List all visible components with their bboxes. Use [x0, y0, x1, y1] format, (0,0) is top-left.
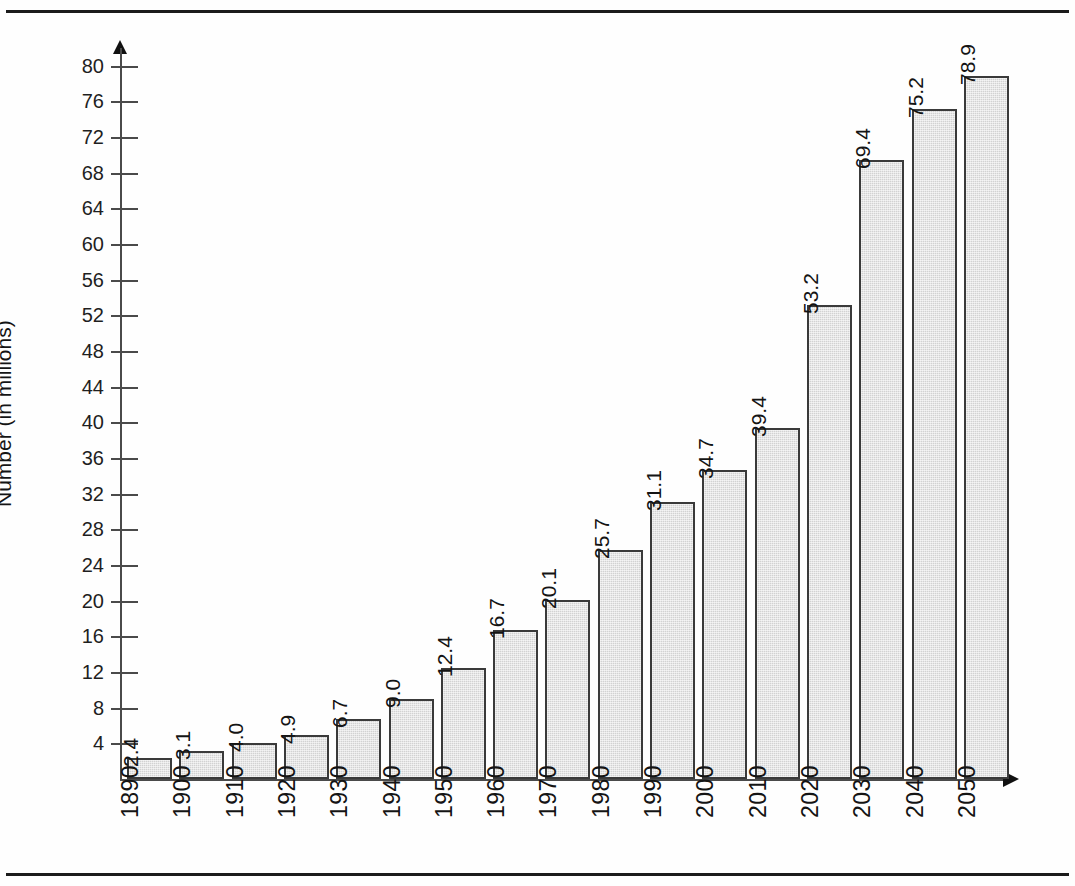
y-axis-tick: [111, 351, 138, 353]
y-axis-tick: [111, 636, 138, 638]
bar-value-label: 69.4: [852, 128, 873, 169]
y-axis-tick-label: 40: [50, 412, 104, 432]
bar: [493, 630, 538, 779]
bar: [545, 600, 590, 779]
y-axis-tick-label: 64: [50, 198, 104, 218]
bar: [912, 109, 957, 779]
bar-value-label: 4.9: [277, 715, 298, 744]
y-axis-tick-label: 24: [50, 555, 104, 575]
bar-value-label: 34.7: [695, 438, 716, 479]
bottom-rule: [6, 873, 1069, 876]
y-axis-tick: [111, 494, 138, 496]
x-axis-tick-label: 1970: [537, 765, 560, 818]
y-axis-tick: [111, 672, 138, 674]
x-axis-tick-label: 1920: [276, 765, 299, 818]
bar-value-label: 78.9: [957, 44, 978, 85]
x-axis-tick-label: 2010: [747, 765, 770, 818]
bar: [859, 160, 904, 779]
y-axis-tick-label: 60: [50, 234, 104, 254]
bar: [441, 668, 486, 779]
bar: [702, 470, 747, 779]
x-axis-tick-label: 1990: [642, 765, 665, 818]
bar-value-label: 75.2: [905, 77, 926, 118]
x-axis-tick-label: 2040: [904, 765, 927, 818]
y-axis-tick: [111, 601, 138, 603]
x-axis-tick-label: 1930: [328, 765, 351, 818]
bar-value-label: 39.4: [748, 396, 769, 437]
y-axis-tick-label: 56: [50, 270, 104, 290]
y-axis-tick-label: 76: [50, 91, 104, 111]
y-axis-tick-label: 8: [50, 698, 104, 718]
y-axis-tick: [111, 208, 138, 210]
bar-value-label: 31.1: [643, 470, 664, 511]
bar: [650, 502, 695, 779]
x-axis-tick-label: 1890: [119, 765, 142, 818]
y-axis-tick: [111, 565, 138, 567]
y-axis-tick-label: 16: [50, 626, 104, 646]
x-axis-tick-label: 2020: [799, 765, 822, 818]
y-axis-tick-label: 44: [50, 377, 104, 397]
y-axis-tick-label: 52: [50, 305, 104, 325]
bar-value-label: 6.7: [329, 699, 350, 728]
bar-chart-plot: Number (in millions) 4812162024283236404…: [0, 0, 1075, 886]
y-axis-tick: [111, 244, 138, 246]
bar: [964, 76, 1009, 779]
y-axis-tick-label: 32: [50, 484, 104, 504]
bar-value-label: 25.7: [591, 518, 612, 559]
x-axis-tick-label: 2000: [694, 765, 717, 818]
bar: [598, 550, 643, 779]
y-axis-tick: [111, 315, 138, 317]
y-axis-tick: [111, 708, 138, 710]
bar-value-label: 16.7: [486, 598, 507, 639]
x-axis-tick-label: 1950: [433, 765, 456, 818]
x-axis-tick-label: 1980: [590, 765, 613, 818]
y-axis-tick-label: 36: [50, 448, 104, 468]
y-axis-title: Number (in millions): [0, 320, 14, 507]
y-axis-tick-label: 12: [50, 662, 104, 682]
y-axis-tick-label: 28: [50, 519, 104, 539]
y-axis-tick-label: 4: [50, 733, 104, 753]
y-axis-tick: [111, 387, 138, 389]
x-axis-tick-label: 2050: [956, 765, 979, 818]
y-axis-tick-label: 48: [50, 341, 104, 361]
bar-value-label: 4.0: [225, 723, 246, 752]
chart-page: Number (in millions) 4812162024283236404…: [0, 0, 1075, 886]
y-axis-tick-label: 68: [50, 163, 104, 183]
y-axis-tick: [111, 173, 138, 175]
y-axis-tick: [111, 458, 138, 460]
y-axis-tick: [111, 280, 138, 282]
x-axis-tick-label: 1910: [224, 765, 247, 818]
x-axis-tick-label: 1900: [171, 765, 194, 818]
bar-value-label: 3.1: [172, 731, 193, 760]
y-axis-line: [120, 48, 122, 780]
y-axis-tick-label: 20: [50, 591, 104, 611]
y-axis-tick: [111, 137, 138, 139]
x-axis-tick-label: 1940: [381, 765, 404, 818]
y-axis-tick: [111, 101, 138, 103]
y-axis-tick-label: 72: [50, 127, 104, 147]
bar: [807, 305, 852, 779]
x-axis-tick-label: 2030: [851, 765, 874, 818]
y-axis-tick: [111, 66, 138, 68]
bar-value-label: 2.4: [120, 737, 141, 766]
x-axis-tick-label: 1960: [485, 765, 508, 818]
bar-value-label: 20.1: [538, 568, 559, 609]
y-axis-tick-label: 80: [50, 56, 104, 76]
bar-value-label: 9.0: [382, 679, 403, 708]
y-axis-tick: [111, 529, 138, 531]
bar-value-label: 53.2: [800, 273, 821, 314]
bar: [755, 428, 800, 779]
bar-value-label: 12.4: [434, 637, 455, 678]
y-axis-tick: [111, 422, 138, 424]
